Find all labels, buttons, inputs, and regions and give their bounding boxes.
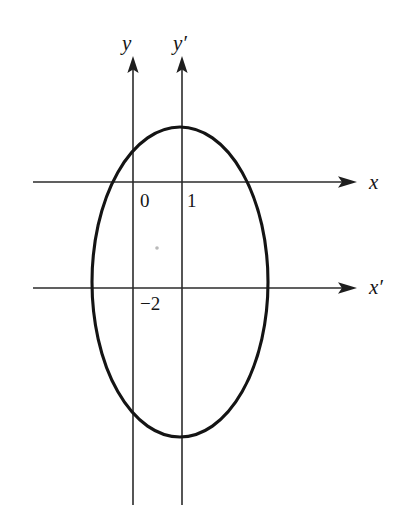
x-prime-axis-label: x′ bbox=[369, 277, 383, 298]
geometry-figure: y y′ x x′ 0 1 −2 bbox=[0, 0, 406, 525]
x-axis-label: x bbox=[369, 172, 378, 193]
scan-speck bbox=[155, 246, 159, 250]
x-prime-axis-group bbox=[33, 282, 357, 294]
x-axis-group bbox=[33, 176, 357, 188]
coordinate-diagram-canvas bbox=[0, 0, 406, 525]
tick-label-minus-two: −2 bbox=[140, 294, 160, 313]
y-axis-label: y bbox=[122, 33, 131, 54]
y-prime-axis-label: y′ bbox=[173, 33, 187, 54]
ellipse-curve bbox=[92, 127, 268, 437]
y-axis-group bbox=[127, 56, 138, 505]
tick-label-zero: 0 bbox=[140, 191, 150, 210]
tick-label-one: 1 bbox=[187, 191, 197, 210]
